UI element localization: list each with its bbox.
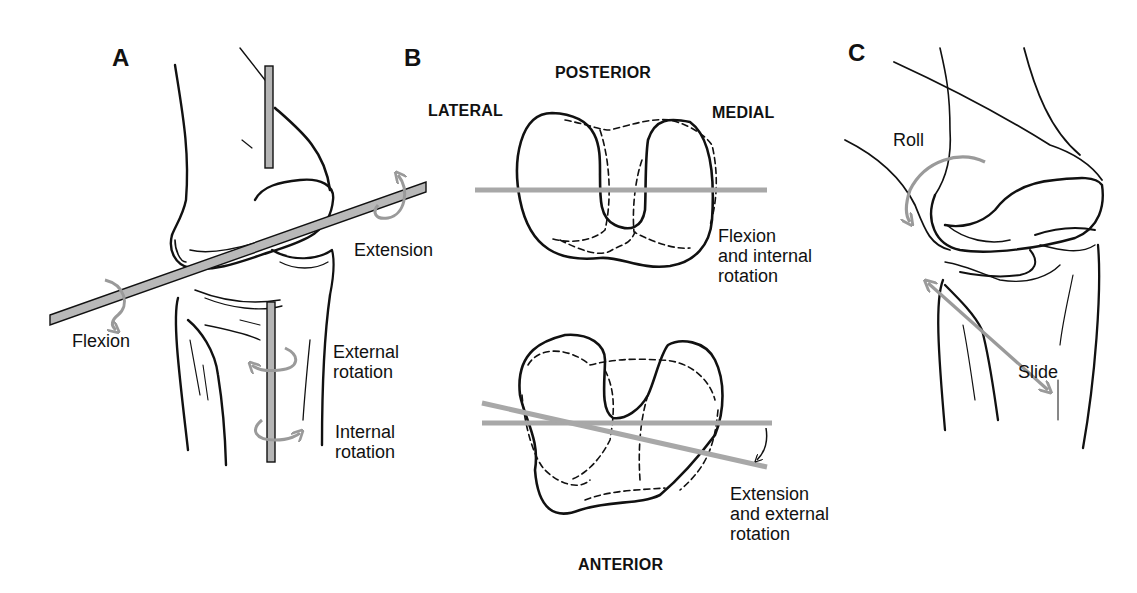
- label-external-rotation-line1: External: [333, 342, 399, 362]
- label-posterior: POSTERIOR: [555, 64, 651, 82]
- label-internal-rotation-line1: Internal: [335, 422, 395, 442]
- panel-b-letter: B: [404, 45, 421, 72]
- label-internal-rotation: Internal rotation: [335, 422, 395, 462]
- panel-c-letter: C: [848, 40, 865, 67]
- label-medial: MEDIAL: [712, 104, 775, 122]
- label-flexion-internal-line1: Flexion: [718, 226, 812, 246]
- panel-b-rotation-arrow-icon: [757, 428, 767, 460]
- label-external-rotation-line2: rotation: [333, 362, 399, 382]
- label-external-rotation: External rotation: [333, 342, 399, 382]
- label-extension-external-line2: and external: [730, 504, 829, 524]
- label-internal-rotation-line2: rotation: [335, 442, 395, 462]
- panel-a-letter: A: [112, 45, 129, 72]
- panel-a-knee-front-view: [171, 48, 334, 465]
- label-extension: Extension: [354, 240, 433, 260]
- label-slide: Slide: [1018, 362, 1058, 382]
- label-flexion: Flexion: [72, 331, 130, 351]
- label-anterior: ANTERIOR: [578, 556, 663, 574]
- internal-rotation-arrow-icon: [256, 420, 300, 440]
- label-flexion-internal-rotation: Flexion and internal rotation: [718, 226, 812, 286]
- label-roll: Roll: [893, 130, 924, 150]
- panel-b-axis-line-bottom-rotated: [482, 403, 767, 467]
- label-extension-external-rotation: Extension and external rotation: [730, 484, 829, 544]
- panel-c-knee-side-view: [845, 48, 1103, 448]
- label-extension-external-line1: Extension: [730, 484, 829, 504]
- label-lateral: LATERAL: [428, 102, 503, 120]
- label-flexion-internal-line2: and internal: [718, 246, 812, 266]
- panel-a-vertical-axis-rod: [265, 66, 275, 462]
- knee-motion-diagram: [0, 0, 1137, 593]
- label-flexion-internal-line3: rotation: [718, 266, 812, 286]
- label-extension-external-line3: rotation: [730, 524, 829, 544]
